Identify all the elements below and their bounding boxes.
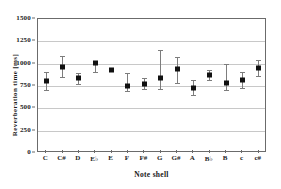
marker — [44, 79, 49, 84]
y-tick-mark — [32, 18, 35, 19]
y-tick-label: 250 — [20, 126, 31, 134]
marker — [76, 76, 81, 81]
x-tick-mark — [241, 150, 242, 153]
gridline — [38, 41, 265, 42]
error-cap-lower — [240, 88, 245, 89]
error-cap-lower — [76, 84, 81, 85]
error-cap-lower — [125, 91, 130, 92]
error-cap-lower — [158, 89, 163, 90]
x-tick-mark — [111, 150, 112, 153]
y-tick-mark — [32, 152, 35, 153]
y-tick-label: 750 — [20, 81, 31, 89]
marker — [60, 64, 65, 69]
x-axis-title: Note shell — [37, 170, 266, 179]
x-axis-tick-labels: CC#DE♭EFF#GG#AB♭Bcc# — [37, 154, 266, 166]
x-tick-label: D — [75, 154, 80, 162]
error-cap-upper — [158, 50, 163, 51]
error-cap-lower — [224, 90, 229, 91]
x-tick-mark — [45, 150, 46, 153]
marker — [191, 85, 196, 90]
x-tick-label: G# — [172, 154, 181, 162]
error-cap-upper — [76, 73, 81, 74]
marker — [175, 67, 180, 72]
error-cap-lower — [256, 76, 261, 77]
y-tick-mark — [32, 129, 35, 130]
x-tick-label: B — [223, 154, 228, 162]
error-cap-lower — [207, 80, 212, 81]
x-tick-mark — [160, 150, 161, 153]
x-tick-label: C — [43, 154, 48, 162]
y-tick-label: 1000 — [16, 59, 31, 67]
x-tick-label: E♭ — [90, 154, 98, 163]
y-axis-tick-labels: 0250500750100012501500 — [0, 18, 35, 152]
reverberation-time-chart: Reverberation time [ms] 0250500750100012… — [0, 0, 281, 189]
x-tick-mark — [78, 150, 79, 153]
y-tick-label: 1250 — [16, 36, 31, 44]
marker — [125, 84, 130, 89]
x-tick-mark — [94, 150, 95, 153]
error-cap-upper — [175, 57, 180, 58]
x-tick-label: C# — [57, 154, 66, 162]
marker — [240, 78, 245, 83]
error-cap-lower — [60, 77, 65, 78]
x-tick-label: F — [125, 154, 129, 162]
error-cap-upper — [224, 64, 229, 65]
x-tick-mark — [62, 150, 63, 153]
error-cap-upper — [207, 70, 212, 71]
x-tick-mark — [176, 150, 177, 153]
marker — [224, 80, 229, 85]
marker — [93, 61, 98, 66]
error-cap-upper — [125, 73, 130, 74]
error-cap-upper — [256, 60, 261, 61]
y-tick-label: 1500 — [16, 14, 31, 22]
x-tick-label: G — [157, 154, 162, 162]
marker — [207, 73, 212, 78]
x-tick-label: A — [190, 154, 195, 162]
x-tick-mark — [209, 150, 210, 153]
gridline — [38, 86, 265, 87]
y-tick-mark — [32, 40, 35, 41]
marker — [256, 66, 261, 71]
error-cap-upper — [191, 80, 196, 81]
x-tick-mark — [127, 150, 128, 153]
gridline — [38, 64, 265, 65]
x-tick-mark — [192, 150, 193, 153]
y-tick-label: 500 — [20, 103, 31, 111]
gridline — [38, 131, 265, 132]
x-tick-label: E — [108, 154, 113, 162]
error-cap-lower — [142, 89, 147, 90]
error-cap-lower — [44, 90, 49, 91]
y-tick-mark — [32, 85, 35, 86]
error-cap-upper — [240, 72, 245, 73]
x-tick-mark — [225, 150, 226, 153]
error-bar — [160, 50, 161, 88]
x-tick-label: B♭ — [205, 154, 213, 163]
y-tick-label: 0 — [27, 148, 31, 156]
error-bar — [226, 64, 227, 91]
gridline — [38, 108, 265, 109]
x-tick-mark — [258, 150, 259, 153]
marker — [109, 68, 114, 73]
x-tick-label: c# — [255, 154, 262, 162]
error-cap-upper — [142, 78, 147, 79]
x-tick-mark — [143, 150, 144, 153]
marker — [142, 82, 147, 87]
y-tick-mark — [32, 107, 35, 108]
error-cap-lower — [93, 72, 98, 73]
x-tick-label: c — [240, 154, 243, 162]
error-cap-lower — [175, 83, 180, 84]
y-tick-mark — [32, 62, 35, 63]
error-cap-upper — [60, 56, 65, 57]
x-tick-label: F# — [139, 154, 147, 162]
marker — [158, 75, 163, 80]
error-cap-upper — [44, 72, 49, 73]
plot-area — [37, 18, 266, 152]
error-cap-lower — [191, 95, 196, 96]
